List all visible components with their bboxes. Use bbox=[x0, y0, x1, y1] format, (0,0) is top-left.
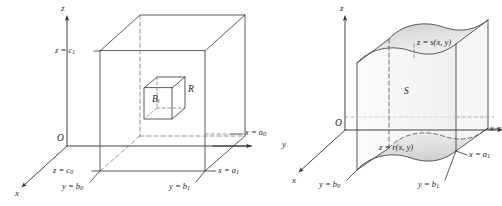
box-hidden-diagonal bbox=[100, 136, 140, 171]
left-diagram-svg bbox=[0, 0, 251, 206]
panel-rectangular-box: z x O z = c1 z = c0 y = b0 y = b1 x = a1… bbox=[0, 0, 251, 206]
leader-y-b1 bbox=[196, 171, 205, 182]
leader-y-b0 bbox=[347, 170, 357, 180]
leader-y-b0 bbox=[90, 171, 100, 182]
panel-general-solid: z x O z = s(x, y) z = r(x, y) S y = b0 y… bbox=[251, 0, 502, 206]
subbox-front-face bbox=[144, 88, 172, 119]
right-diagram-svg bbox=[251, 0, 502, 206]
subbox-top-face bbox=[144, 77, 185, 88]
box-right-face bbox=[205, 15, 245, 171]
subbox-hidden-diagonal bbox=[144, 108, 157, 119]
leader-x-a1 bbox=[456, 151, 467, 155]
subbox-right-face bbox=[172, 77, 185, 119]
figure-root: z x O z = c1 z = c0 y = b0 y = b1 x = a1… bbox=[0, 0, 502, 206]
x-axis-line bbox=[22, 146, 67, 187]
box-front-face bbox=[100, 51, 205, 171]
x-axis-line bbox=[299, 130, 345, 172]
box-top-face bbox=[100, 15, 245, 51]
